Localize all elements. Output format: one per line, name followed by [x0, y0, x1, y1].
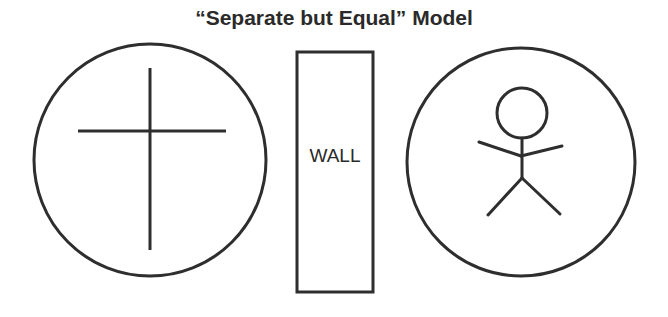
- left-circle: [34, 44, 266, 276]
- stick-figure-icon: [479, 88, 562, 215]
- wall: [297, 52, 373, 292]
- cross-icon: [78, 68, 226, 250]
- wall-label: WALL: [297, 145, 373, 167]
- right-circle: [407, 48, 635, 276]
